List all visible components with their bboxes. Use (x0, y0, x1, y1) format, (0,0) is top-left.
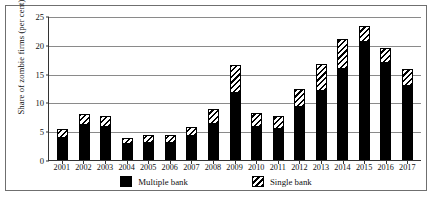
x-axis-tick-label: 2010 (245, 163, 267, 172)
stacked-bar (186, 127, 197, 160)
bar-segment-multiple-bank (316, 91, 327, 160)
bar-segment-single-bank (100, 116, 111, 127)
legend-label-single-bank: Single bank (270, 177, 312, 187)
bar-column (117, 17, 139, 160)
bar-segment-single-bank (273, 116, 284, 129)
x-axis-tick-label: 2007 (181, 163, 203, 172)
plot-area: 0510152025 (48, 17, 421, 161)
stacked-bar (143, 135, 154, 160)
bar-segment-multiple-bank (359, 42, 370, 160)
bar-segment-single-bank (337, 39, 348, 69)
x-axis-tick-mark (105, 161, 106, 164)
stacked-bar (359, 26, 370, 160)
solid-black-swatch-icon (120, 176, 132, 187)
bar-segment-single-bank (294, 89, 305, 107)
stacked-bar (294, 89, 305, 160)
x-axis-tick-label: 2006 (159, 163, 181, 172)
y-axis-tick-label: 0 (40, 156, 44, 166)
bar-segment-single-bank (165, 135, 176, 143)
bar-column (353, 17, 375, 160)
stacked-bar (402, 69, 413, 160)
legend-label-multiple-bank: Multiple bank (138, 177, 188, 187)
bar-column (375, 17, 397, 160)
legend-item-multiple-bank: Multiple bank (120, 176, 188, 187)
x-axis-tick-mark (278, 161, 279, 164)
bar-segment-multiple-bank (165, 143, 176, 160)
bar-segment-single-bank (402, 69, 413, 86)
stacked-bar (380, 48, 391, 160)
x-axis-tick-mark (191, 161, 192, 164)
stacked-bar (230, 65, 241, 160)
bar-column (138, 17, 160, 160)
x-axis-tick-label: 2011 (267, 163, 289, 172)
x-axis-tick-mark (407, 161, 408, 164)
bar-segment-multiple-bank (79, 125, 90, 160)
bar-segment-single-bank (230, 65, 241, 93)
bar-column (310, 17, 332, 160)
stacked-bar (316, 64, 327, 160)
bar-segment-multiple-bank (186, 136, 197, 160)
stacked-bar (57, 129, 68, 160)
x-axis-tick-mark (148, 161, 149, 164)
x-axis-tick-label: 2012 (289, 163, 311, 172)
bar-segment-multiple-bank (208, 124, 219, 160)
x-axis-tick-mark (235, 161, 236, 164)
bar-column (160, 17, 182, 160)
x-axis-tick-mark (170, 161, 171, 164)
x-axis-tick-mark (83, 161, 84, 164)
bar-column (289, 17, 311, 160)
bar-series-container (49, 17, 421, 160)
x-axis-tick-mark (62, 161, 63, 164)
bar-segment-multiple-bank (402, 86, 413, 160)
x-axis-tick-label: 2013 (310, 163, 332, 172)
bar-segment-multiple-bank (230, 93, 241, 160)
bar-column (203, 17, 225, 160)
hatched-swatch-icon (252, 176, 264, 187)
x-axis-tick-label: 2014 (332, 163, 354, 172)
bar-segment-multiple-bank (273, 129, 284, 160)
bar-segment-single-bank (57, 129, 68, 138)
bar-segment-single-bank (143, 135, 154, 143)
bar-segment-multiple-bank (100, 127, 111, 160)
y-axis-title: Share of zombie firms (per cent) (16, 0, 26, 127)
y-axis-tick-label: 10 (35, 98, 44, 108)
y-axis-tick-label: 25 (35, 12, 44, 22)
bar-segment-multiple-bank (380, 63, 391, 160)
stacked-bar (251, 113, 262, 160)
x-axis-tick-mark (386, 161, 387, 164)
bar-segment-single-bank (186, 127, 197, 136)
bar-segment-multiple-bank (294, 107, 305, 160)
y-axis-tick-label: 5 (40, 127, 44, 137)
y-axis-tick-mark (46, 161, 49, 162)
x-axis-tick-label: 2008 (202, 163, 224, 172)
bar-segment-single-bank (208, 109, 219, 124)
bar-segment-single-bank (251, 113, 262, 126)
stacked-bar (122, 138, 133, 160)
x-axis-tick-mark (256, 161, 257, 164)
chart-legend: Multiple bank Single bank (0, 176, 432, 187)
stacked-bar (100, 116, 111, 160)
bar-segment-single-bank (316, 64, 327, 91)
stacked-bar (208, 109, 219, 160)
stacked-bar (273, 116, 284, 160)
y-axis-tick-label: 20 (35, 41, 44, 51)
x-axis-tick-label: 2015 (353, 163, 375, 172)
x-axis-tick-mark (321, 161, 322, 164)
bar-segment-single-bank (79, 114, 90, 126)
legend-item-single-bank: Single bank (252, 176, 312, 187)
bar-segment-multiple-bank (122, 144, 133, 160)
stacked-bar (79, 114, 90, 160)
bar-segment-multiple-bank (57, 138, 68, 160)
bar-segment-single-bank (380, 48, 391, 64)
bar-column (246, 17, 268, 160)
x-axis-tick-label: 2003 (94, 163, 116, 172)
x-axis-tick-label: 2004 (116, 163, 138, 172)
bar-column (332, 17, 354, 160)
bar-column (74, 17, 96, 160)
bar-column (224, 17, 246, 160)
x-axis-tick-mark (213, 161, 214, 164)
zombie-firms-chart-figure: Share of zombie firms (per cent) 0510152… (0, 0, 432, 201)
bar-segment-multiple-bank (337, 69, 348, 160)
x-axis-tick-label: 2001 (51, 163, 73, 172)
bar-segment-multiple-bank (251, 127, 262, 160)
